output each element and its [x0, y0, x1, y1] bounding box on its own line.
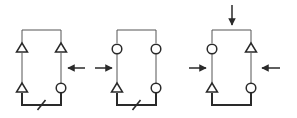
bottom-wire [22, 93, 61, 105]
top-wire [117, 30, 156, 43]
bottom-wire [212, 93, 251, 105]
circuit-config-1 [17, 30, 86, 110]
triangle-node-icon [17, 43, 28, 52]
top-wire [22, 30, 61, 43]
triangle-node-icon [246, 43, 257, 52]
circle-node-icon [207, 44, 217, 54]
triangle-node-icon [112, 83, 123, 92]
circuit-config-2 [95, 30, 161, 110]
circuit-configurations-diagram [0, 0, 297, 118]
bottom-wire [117, 93, 156, 105]
circuit-config-3 [189, 5, 280, 105]
circle-node-icon [56, 83, 66, 93]
triangle-node-icon [17, 83, 28, 92]
triangle-node-icon [56, 43, 67, 52]
circle-node-icon [246, 83, 256, 93]
triangle-node-icon [207, 83, 218, 92]
circle-node-icon [112, 44, 122, 54]
top-wire [212, 30, 251, 43]
circle-node-icon [151, 83, 161, 93]
circle-node-icon [151, 44, 161, 54]
